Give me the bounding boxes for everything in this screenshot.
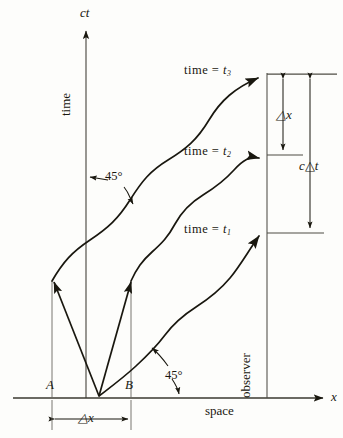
reception-label-t1: time = t1 — [184, 223, 231, 236]
reception-t1-equals: = — [212, 222, 220, 236]
delta-x-measure-label: △x — [276, 108, 292, 121]
reception-t2-equals: = — [212, 144, 220, 158]
space-axis-name-label: space — [205, 404, 234, 417]
c-delta-t-measure-label: c△t — [299, 159, 318, 172]
event-b-label: B — [125, 378, 133, 391]
reception-t3-equals: = — [212, 63, 220, 77]
photon-worldline-t3 — [52, 78, 258, 281]
bottom-delta-x-label: △x — [78, 411, 94, 424]
x-axis-label: x — [331, 390, 337, 403]
time-axis-name-label: time — [59, 93, 72, 116]
light-ray-to-a — [54, 282, 99, 396]
photon-worldline-group — [52, 78, 259, 396]
angle-label-lower-45: 45° — [165, 369, 183, 382]
ct-axis-label: ct — [80, 6, 89, 19]
reception-label-t3: time = t3 — [184, 64, 231, 77]
observer-worldline-label: observer — [239, 353, 252, 398]
reception-t2-subscript: 2 — [227, 150, 231, 159]
c-delta-t-delta-symbol: △ — [305, 158, 315, 173]
reception-t2-prefix: time — [184, 144, 208, 158]
light-ray-group — [54, 282, 131, 396]
reception-t1-subscript: 1 — [227, 228, 231, 237]
axis-group — [13, 31, 323, 398]
photon-worldline-t2 — [131, 158, 259, 282]
reception-t1-prefix: time — [184, 222, 208, 236]
reception-t3-prefix: time — [184, 63, 208, 77]
reception-tick-group — [267, 74, 337, 233]
reception-t3-subscript: 3 — [227, 69, 231, 78]
reception-label-t2: time = t2 — [184, 145, 231, 158]
spacetime-diagram-figure: ct time x space observer A B △x △x c△t t… — [0, 0, 343, 438]
angle-leader-lower-to-curve — [152, 348, 168, 366]
c-delta-t-suffix: t — [315, 158, 319, 173]
event-a-label: A — [46, 378, 54, 391]
angle-label-upper-45: 45° — [105, 170, 123, 183]
angle-leader-group — [90, 177, 179, 394]
